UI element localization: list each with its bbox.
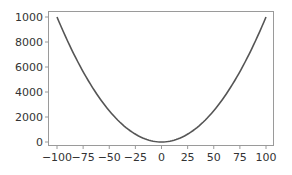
y-tick-label: 4000 [15, 86, 43, 99]
y-tick-label: 1000 [15, 11, 43, 24]
x-tick-label: −75 [72, 151, 95, 164]
y-tick-label: 0 [36, 136, 43, 149]
x-tick-label: −50 [98, 151, 121, 164]
x-tick-label: 100 [256, 151, 277, 164]
x-tick-label: 50 [207, 151, 221, 164]
x-tick-label: 0 [158, 151, 165, 164]
parabola-chart: −100−75−50−250255075100 0200040006000800… [0, 0, 292, 175]
y-axis: 020004000600080001000 [15, 11, 49, 149]
plot-area [49, 12, 274, 146]
x-tick-label: −25 [124, 151, 147, 164]
x-tick-label: 75 [233, 151, 247, 164]
y-tick-label: 6000 [15, 61, 43, 74]
x-tick-label: −100 [42, 151, 72, 164]
x-axis: −100−75−50−250255075100 [42, 146, 277, 165]
x-tick-label: 25 [181, 151, 195, 164]
y-tick-label: 2000 [15, 111, 43, 124]
y-tick-label: 8000 [15, 36, 43, 49]
